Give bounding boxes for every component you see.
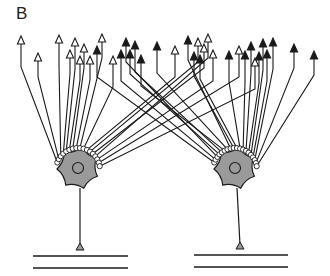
dendrite-line — [97, 54, 214, 163]
dendrite-line — [243, 59, 245, 150]
filled-arrow-icon — [190, 52, 197, 60]
open-arrow-icon — [66, 50, 73, 58]
filled-arrow-icon — [117, 50, 124, 58]
filled-arrow-icon — [153, 42, 160, 50]
filled-arrow-icon — [241, 51, 248, 59]
dendrite-line — [229, 59, 240, 149]
dendrite-line — [59, 43, 61, 156]
open-arrow-icon — [98, 34, 105, 42]
open-arrow-icon — [76, 56, 83, 64]
open-arrow-icon — [71, 38, 78, 46]
synaptic-bouton — [97, 164, 102, 169]
filled-arrow-icon — [290, 44, 297, 52]
open-arrow-icon — [34, 53, 41, 61]
open-arrow-icon — [204, 34, 211, 42]
filled-arrow-icon — [93, 46, 100, 54]
dendrite-line — [38, 61, 59, 159]
dendrite-connections — [21, 42, 314, 166]
synaptic-bouton — [254, 164, 259, 169]
filled-arrow-icon — [263, 50, 270, 58]
filled-arrow-icon — [137, 55, 144, 63]
neural-connectivity-diagram — [0, 0, 330, 276]
nucleus — [73, 163, 84, 174]
dendrite-line — [21, 44, 57, 163]
axon-terminal-icon — [236, 242, 244, 249]
filled-arrow-icon — [269, 38, 276, 46]
open-arrow-icon — [235, 46, 242, 54]
filled-arrow-icon — [131, 41, 138, 49]
dendrite-line — [246, 50, 251, 151]
open-arrow-icon — [171, 46, 178, 54]
filled-arrow-icon — [310, 51, 317, 59]
axon-terminal-icon — [76, 243, 84, 250]
open-arrow-icon — [209, 50, 216, 58]
filled-arrow-icon — [255, 52, 262, 60]
axons — [33, 188, 288, 268]
dendrite-line — [157, 50, 228, 149]
nucleus — [230, 163, 241, 174]
axon-line — [237, 188, 240, 245]
open-arrow-icon — [17, 36, 24, 44]
filled-arrow-icon — [184, 36, 191, 44]
filled-arrow-icon — [122, 38, 129, 46]
dendrite-line — [63, 58, 70, 154]
filled-arrow-icon — [225, 51, 232, 59]
open-arrow-icon — [194, 38, 201, 46]
filled-arrow-icon — [259, 39, 266, 47]
open-arrow-icon — [55, 35, 62, 43]
filled-arrow-icon — [126, 50, 133, 58]
open-arrow-icon — [86, 56, 93, 64]
open-arrow-icon — [80, 44, 87, 52]
dendrite-line — [257, 59, 314, 166]
filled-arrow-icon — [247, 42, 254, 50]
open-arrow-icon — [109, 56, 116, 64]
